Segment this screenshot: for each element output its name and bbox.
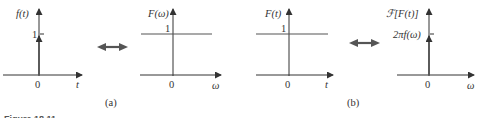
ylabel: f(t) (16, 8, 29, 20)
double-arrow-icon (349, 39, 380, 47)
plot-F-of-omega: F(ω) 1 0 ω (140, 8, 221, 91)
xlabel: t (325, 79, 329, 90)
xlabel: ω (467, 80, 474, 91)
tick-label: 1 (32, 29, 37, 40)
origin-label: 0 (35, 79, 40, 90)
level-label: 1 (281, 23, 286, 34)
level-label: 1 (165, 23, 170, 34)
figure-caption: Figure 18.11 (4, 114, 56, 118)
tick-label: 2πf(ω) (393, 29, 421, 41)
origin-label: 0 (285, 79, 290, 90)
double-arrow-icon (97, 43, 128, 51)
panel-label-b: (b) (347, 97, 360, 109)
plot-f-of-t: f(t) 1 0 t (3, 8, 82, 90)
fourier-duality-figure: f(t) 1 0 t F(ω) 1 0 ω (a) F(t) 1 0 t (0, 0, 480, 118)
ylabel: F(ω) (147, 8, 169, 20)
xlabel: ω (212, 80, 219, 91)
plot-F-of-t: F(t) 1 0 t (256, 8, 333, 90)
plot-fourier-of-F: ℱ[F(t)] 2πf(ω) 0 ω (386, 8, 474, 91)
origin-label: 0 (169, 79, 174, 90)
xlabel: t (76, 79, 80, 90)
ylabel: ℱ[F(t)] (386, 8, 419, 20)
panel-label-a: (a) (105, 97, 117, 109)
origin-label: 0 (425, 79, 430, 90)
ylabel: F(t) (264, 8, 282, 20)
